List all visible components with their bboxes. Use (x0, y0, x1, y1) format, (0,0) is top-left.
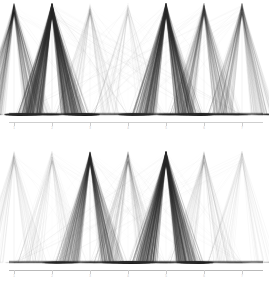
axis-tick-label: 1 (13, 274, 15, 278)
x-axis-top: 1234567 (0, 118, 269, 140)
axis-tick-label: 2 (51, 274, 53, 278)
axis-tick-label: 1 (13, 126, 15, 130)
axis-tick-label: 2 (51, 126, 53, 130)
axis-tick-label: 6 (203, 126, 205, 130)
axis-tick-label: 6 (203, 274, 205, 278)
chart-panel-top: 1234567 (0, 0, 269, 148)
axis-tick-label: 3 (89, 274, 91, 278)
axis-tick-label: 3 (89, 126, 91, 130)
parallel-coordinates-plot-top (0, 0, 269, 118)
figure-root: 1234567 1234567 (0, 0, 269, 293)
plot-canvas-top (0, 0, 269, 118)
chart-panel-bottom: 1234567 (0, 148, 269, 293)
axis-tick-label: 4 (127, 126, 129, 130)
baseline-density-band (9, 113, 263, 115)
axis-tick-label: 5 (165, 126, 167, 130)
plot-canvas-bottom (0, 148, 269, 266)
baseline-density-band (9, 261, 263, 263)
axis-baseline-top (9, 122, 263, 123)
x-axis-bottom: 1234567 (0, 266, 269, 288)
axis-tick-label: 4 (127, 274, 129, 278)
axis-tick-label: 7 (241, 126, 243, 130)
axis-tick-label: 7 (241, 274, 243, 278)
axis-tick-label: 5 (165, 274, 167, 278)
parallel-coordinates-plot-bottom (0, 148, 269, 266)
axis-baseline-bottom (9, 270, 263, 271)
